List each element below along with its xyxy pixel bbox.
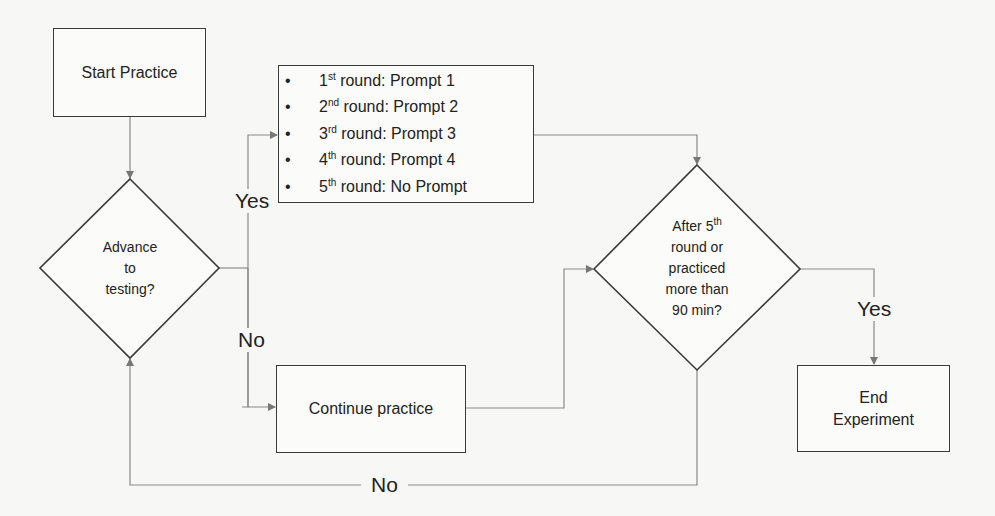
end-decision-text: After 5th round or practiced more than 9… <box>637 212 757 324</box>
start-practice-label: Start Practice <box>81 64 177 82</box>
edge-continue-to-check <box>466 269 593 408</box>
continue-practice-label: Continue practice <box>309 400 434 418</box>
continue-practice-node: Continue practice <box>276 365 466 453</box>
edge-prompts-to-check <box>534 135 697 164</box>
end-decision-line-1: After 5th <box>672 216 722 237</box>
edge-label-advance-yes: Yes <box>233 189 271 213</box>
end-experiment-node: End Experiment <box>797 365 950 452</box>
advance-line-3: testing? <box>105 279 154 300</box>
end-decision-line-3: practiced <box>669 258 726 279</box>
edge-label-end-yes: Yes <box>855 297 893 321</box>
edge-label-loop-no: No <box>361 473 408 497</box>
end-decision-line-4: more than <box>665 279 728 300</box>
prompt-schedule-node: •1st round: Prompt 1 •2nd round: Prompt … <box>278 65 534 203</box>
end-decision-line-2: round or <box>671 237 723 258</box>
prompt-list-item: •4th round: Prompt 4 <box>279 147 467 174</box>
prompt-list: •1st round: Prompt 1 •2nd round: Prompt … <box>279 68 467 201</box>
prompt-list-item: •2nd round: Prompt 2 <box>279 94 467 121</box>
prompt-list-item: •1st round: Prompt 1 <box>279 68 467 95</box>
advance-line-1: Advance <box>103 237 157 258</box>
start-practice-node: Start Practice <box>53 28 206 117</box>
edge-label-advance-no: No <box>236 328 267 352</box>
end-line-1: End <box>859 387 887 409</box>
end-decision-line-5: 90 min? <box>672 300 722 321</box>
advance-decision-text: Advance to testing? <box>70 228 190 308</box>
end-line-2: Experiment <box>833 409 914 431</box>
advance-line-2: to <box>124 258 136 279</box>
prompt-list-item: •5th round: No Prompt <box>279 174 467 201</box>
prompt-list-item: •3rd round: Prompt 3 <box>279 121 467 148</box>
